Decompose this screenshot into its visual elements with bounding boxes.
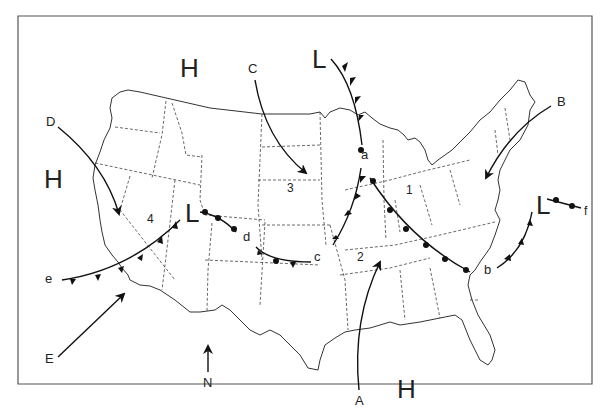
arrow-E — [58, 294, 124, 357]
pressure-high-1: H — [180, 55, 199, 81]
region-3: 3 — [287, 182, 294, 194]
compass-north-label: N — [203, 376, 212, 389]
front-label-f: f — [584, 205, 587, 217]
region-1: 1 — [406, 184, 413, 196]
region-2: 2 — [357, 251, 364, 263]
weather-map: H H H L L L A B C D E a b c d e f 1 2 3 … — [0, 0, 608, 416]
front-label-e: e — [45, 272, 52, 285]
arrow-label-E: E — [45, 352, 54, 365]
front-label-d: d — [243, 230, 250, 243]
front-cold-a-c — [333, 168, 361, 245]
arrow-label-D: D — [46, 115, 55, 128]
arrow-label-C: C — [248, 62, 257, 75]
map-canvas — [0, 0, 608, 416]
arrow-label-A: A — [355, 394, 364, 407]
arrow-label-B: B — [557, 95, 566, 108]
front-warm-f — [547, 199, 581, 208]
front-label-c: c — [314, 250, 321, 263]
map-border — [18, 16, 592, 384]
front-cold-north — [331, 59, 362, 145]
pressure-high-2: H — [44, 166, 63, 192]
region-4: 4 — [147, 213, 154, 225]
front-d-c — [256, 247, 311, 262]
arrow-D — [58, 127, 119, 214]
front-cold-b — [497, 212, 532, 268]
pressure-low-2: L — [185, 200, 199, 226]
pressure-low-1: L — [312, 46, 326, 72]
arrow-C — [255, 80, 306, 173]
air-mass-arrows — [58, 80, 551, 390]
pressure-low-3: L — [536, 192, 550, 218]
front-label-b: b — [484, 263, 491, 276]
state-borders — [95, 101, 510, 330]
pressure-high-3: H — [397, 376, 416, 402]
front-label-a: a — [361, 148, 368, 161]
